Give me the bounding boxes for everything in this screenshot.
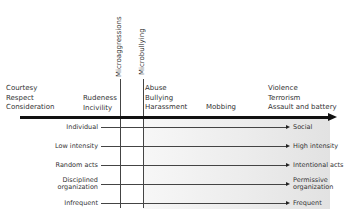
row-arrow-line [101,146,287,147]
microbullying-label: Microbullying [138,28,146,75]
label-consideration: Consideration [6,103,55,113]
row-left-random-acts: Random acts [8,162,98,169]
row-left-low-intensity: Low intensity [8,143,98,150]
arrowhead-icon [286,201,290,205]
label-rudeness: Rudeness [83,94,117,104]
label-abuse: Abuse [145,84,187,94]
label-incivility: Incivility [83,104,117,114]
label-assault-battery: Assault and battery [268,103,337,113]
label-organization: organization [293,184,333,191]
label-courtesy: Courtesy [6,84,55,94]
label-organization: organization [8,184,98,191]
row-left-disciplined-organization: Disciplined organization [8,177,98,191]
category-violence: Violence Terrorism Assault and battery [268,84,337,113]
row-left-individual: Individual [8,124,98,131]
row-left-infrequent: Infrequent [8,200,98,207]
row-arrow-line [101,165,287,166]
row-right-frequent: Frequent [293,200,322,207]
row-right-high-intensity: High intensity [293,143,338,150]
microaggressions-label: Microaggressions [115,16,123,77]
category-rudeness: Rudeness Incivility [83,94,117,113]
label-violence: Violence [268,84,337,94]
axis-arrowhead-icon [328,113,337,121]
row-arrow-line [101,203,287,204]
row-right-social: Social [293,124,312,131]
row-right-intentional-acts: Intentional acts [293,162,344,169]
category-abuse: Abuse Bullying Harassment [145,84,187,113]
label-respect: Respect [6,94,55,104]
arrowhead-icon [286,125,290,129]
arrowhead-icon [286,144,290,148]
arrowhead-icon [286,163,290,167]
arrowhead-icon [286,182,290,186]
label-terrorism: Terrorism [268,94,337,104]
label-bullying: Bullying [145,94,187,104]
category-mobbing: Mobbing [206,103,236,113]
severity-axis [20,116,330,119]
row-arrow-line [101,127,287,128]
microbullying-line [143,79,144,208]
row-right-permissive-organization: Permissive organization [293,177,333,191]
label-harassment: Harassment [145,103,187,113]
row-arrow-line [101,184,287,185]
category-courtesy: Courtesy Respect Consideration [6,84,55,113]
microaggressions-line [120,79,121,208]
label-mobbing: Mobbing [206,103,236,113]
